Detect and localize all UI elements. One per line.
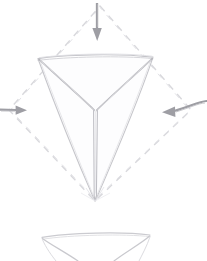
sketch-canvas: inverted-cone-compression-sketch: [0, 0, 207, 261]
sketch-drawing: [0, 0, 207, 261]
